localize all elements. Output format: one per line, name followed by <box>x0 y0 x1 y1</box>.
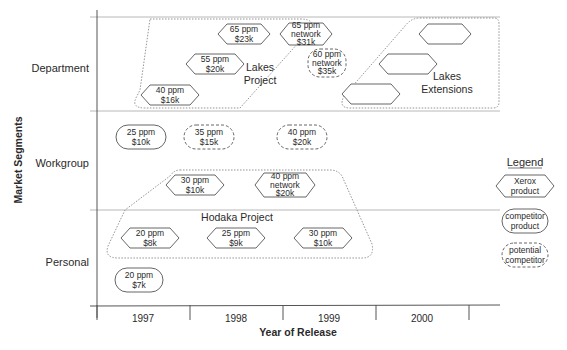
products-layer: 65 ppm$23k65 ppmnetwork$31k55 ppm$20k40 … <box>115 20 471 292</box>
product-label-line: $8k <box>143 238 157 248</box>
hexagon-shape <box>379 54 437 74</box>
lakes-extensions-label: Extensions <box>421 83 472 95</box>
lakes-project-label: Project <box>244 74 277 86</box>
hexagon-shape <box>342 84 400 104</box>
xerox-product-node: 25 ppm$9k <box>207 228 265 248</box>
xerox-product-node <box>342 84 400 104</box>
product-label-line: $10k <box>314 238 333 248</box>
product-label-line: product <box>511 221 540 231</box>
product-label-line: $35k <box>318 66 337 76</box>
product-label-line: $20k <box>293 137 312 147</box>
competitor-product-node: 20 ppm$7k <box>115 268 163 292</box>
segment-label-workgroup: Workgroup <box>35 157 89 169</box>
product-label-line: $10k <box>186 185 205 195</box>
x-axis-line <box>90 305 500 306</box>
competitor-product-node: 25 ppm$10k <box>116 125 166 149</box>
year-label-2000: 2000 <box>411 313 434 324</box>
y-axis-title: Market Segments <box>12 116 24 203</box>
product-label-line: $31k <box>297 37 316 47</box>
hodaka-project-label: Hodaka Project <box>201 211 273 223</box>
xerox-product-node: 30 ppm$10k <box>294 228 352 248</box>
year-label-1997: 1997 <box>132 313 155 324</box>
year-label-1999: 1999 <box>318 313 341 324</box>
legend-title: Legend <box>507 156 544 168</box>
legend-item-potential: potentialcompetitor <box>502 243 548 267</box>
hexagon-shape <box>419 24 471 44</box>
xerox-product-node <box>379 54 437 74</box>
product-label-line: $15k <box>200 137 219 147</box>
product-label-line: competitor <box>505 255 545 265</box>
xerox-product-node: 30 ppm$10k <box>166 175 224 195</box>
potential-product-node: 35 ppm$15k <box>184 125 234 149</box>
xerox-product-node: 65 ppm$23k <box>218 24 270 44</box>
product-label-line: $20k <box>276 188 295 198</box>
segment-label-personal: Personal <box>46 256 89 268</box>
product-label-line: $20k <box>206 64 225 74</box>
potential-product-node: 60 ppmnetwork$35k <box>308 49 346 77</box>
lakes-project-label: Lakes <box>246 61 274 73</box>
product-label-line: $9k <box>229 238 243 248</box>
product-label-line: $7k <box>132 280 146 290</box>
roadmap-diagram: Department Workgroup Personal Market Seg… <box>0 0 567 350</box>
legend: Xeroxproductcompetitorproductpotentialco… <box>496 175 554 267</box>
product-label-line: $16k <box>161 95 180 105</box>
product-label-line: $23k <box>235 34 254 44</box>
xerox-product-node: 40 ppmnetwork$20k <box>255 171 315 198</box>
xerox-product-node: 40 ppm$16k <box>141 85 199 105</box>
xerox-product-node: 65 ppmnetwork$31k <box>280 20 332 47</box>
xerox-product-node: 55 ppm$20k <box>186 54 244 74</box>
legend-item-xerox: Xeroxproduct <box>496 175 554 197</box>
segment-label-department: Department <box>32 62 89 74</box>
potential-product-node: 40 ppm$20k <box>277 125 327 149</box>
product-label-line: $10k <box>132 137 151 147</box>
xerox-product-node <box>419 24 471 44</box>
lakes-extensions-label: Lakes <box>433 70 461 82</box>
legend-item-competitor: competitorproduct <box>502 209 548 233</box>
xerox-product-node: 20 ppm$8k <box>121 228 179 248</box>
product-label-line: product <box>511 186 540 196</box>
x-axis-title: Year of Release <box>259 326 337 338</box>
year-label-1998: 1998 <box>225 313 248 324</box>
